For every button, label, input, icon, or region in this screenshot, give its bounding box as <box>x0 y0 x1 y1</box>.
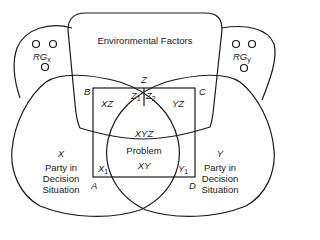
region-z2-label: Z2 <box>146 91 156 102</box>
environment-label: Environmental Factors <box>97 36 192 46</box>
region-xyz-label: XYZ <box>135 129 153 139</box>
rg-y-label: RGy <box>233 52 251 63</box>
party-x-description: Party in Decision Situation <box>43 162 80 195</box>
rg-x-member-icon <box>50 41 57 48</box>
party-y-description: Party in Decision Situation <box>202 162 239 195</box>
corner-c-label: C <box>199 87 206 97</box>
rg-y-member-icon <box>241 65 248 72</box>
corner-a-label: A <box>91 181 97 191</box>
reference-group-y-shape <box>222 27 275 100</box>
rg-y-member-icon <box>249 41 256 48</box>
region-yz-label: YZ <box>172 99 184 109</box>
rg-x-member-icon <box>42 64 49 71</box>
region-x1-label: X1 <box>98 164 108 175</box>
region-y1-label: Y1 <box>178 164 188 175</box>
rg-x-label: RGx <box>33 52 51 63</box>
rg-y-member-icon <box>233 41 240 48</box>
region-z1-label: Z1 <box>131 91 141 102</box>
region-z-label: Z <box>141 75 147 85</box>
region-xy-label: XY <box>138 161 151 171</box>
corner-d-label: D <box>189 181 196 191</box>
party-y-letter: Y <box>217 149 223 159</box>
corner-b-label: B <box>84 87 90 97</box>
party-x-letter: X <box>58 149 64 159</box>
rg-x-member-icon <box>33 41 40 48</box>
region-xz-label: XZ <box>101 99 113 109</box>
region-problem-label: Problem <box>126 146 161 156</box>
